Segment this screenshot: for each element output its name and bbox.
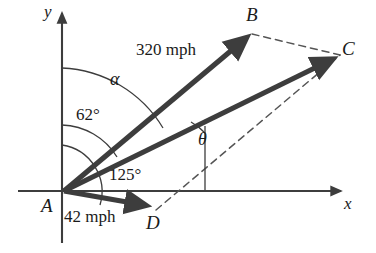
dashed-segment-bc bbox=[252, 34, 340, 55]
point-label-c: C bbox=[342, 39, 355, 58]
dashed-construction-lines bbox=[156, 34, 340, 210]
angle-label-125: 125° bbox=[109, 166, 141, 183]
magnitude-label-320mph: 320 mph bbox=[136, 41, 196, 58]
x-axis-label: x bbox=[344, 195, 352, 212]
vector-group bbox=[64, 39, 331, 205]
diagram-canvas bbox=[0, 0, 376, 253]
angle-label-alpha: α bbox=[110, 70, 119, 88]
point-label-b: B bbox=[246, 5, 258, 24]
angle-label-theta: θ bbox=[198, 130, 207, 148]
y-axis-label: y bbox=[44, 3, 52, 20]
point-label-d: D bbox=[146, 213, 160, 232]
magnitude-label-42mph: 42 mph bbox=[64, 208, 115, 225]
vector-ad-42mph bbox=[64, 191, 144, 205]
angle-label-62: 62° bbox=[76, 106, 100, 123]
vector-diagram-figure: y x A B C D α 62° 125° θ 320 mph 42 mph bbox=[0, 0, 376, 253]
point-label-a: A bbox=[41, 196, 53, 215]
